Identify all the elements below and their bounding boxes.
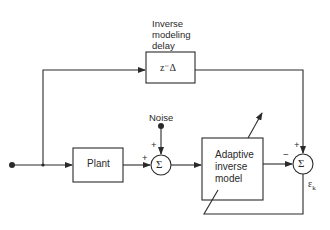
delay-label-line1: Inverse — [152, 18, 191, 29]
sum1-symbol: Σ — [156, 158, 162, 170]
sum2-symbol: Σ — [298, 157, 304, 169]
delay-label-line3: delay — [152, 40, 191, 51]
branch-line — [43, 70, 145, 165]
noise-node — [158, 123, 164, 129]
sum2-top-sign: + — [294, 139, 300, 150]
input-node — [9, 162, 15, 168]
plant-label: Plant — [87, 158, 110, 170]
delay-label-line2: modeling — [152, 29, 191, 40]
noise-label: Noise — [149, 112, 173, 123]
error-label: εk — [308, 178, 316, 192]
adaptive-label-line3: model — [215, 173, 254, 185]
sum2-left-sign: − — [283, 149, 289, 160]
adaptive-label: Adaptive inverse model — [215, 149, 254, 185]
delay-label: Inverse modeling delay — [152, 18, 191, 51]
sum1-top-sign: + — [151, 139, 157, 150]
sum1-left-sign: + — [142, 152, 148, 163]
error-subscript: k — [312, 184, 316, 192]
delay-output-line — [195, 70, 303, 153]
adaptive-label-line1: Adaptive — [215, 149, 254, 161]
adaptive-label-line2: inverse — [215, 161, 254, 173]
delay-block-text: z⁻Δ — [160, 62, 176, 74]
junction-node — [41, 163, 44, 166]
